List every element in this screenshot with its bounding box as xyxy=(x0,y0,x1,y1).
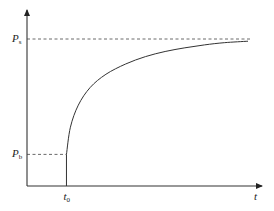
x-axis-label: t xyxy=(254,190,258,202)
pressure-time-diagram: PsPbt0t xyxy=(0,0,274,211)
pressure-curve xyxy=(66,41,248,154)
y-tick-label-pb: Pb xyxy=(11,147,23,161)
x-tick-label-t0: t0 xyxy=(63,190,70,204)
y-tick-label-ps: Ps xyxy=(11,32,22,46)
